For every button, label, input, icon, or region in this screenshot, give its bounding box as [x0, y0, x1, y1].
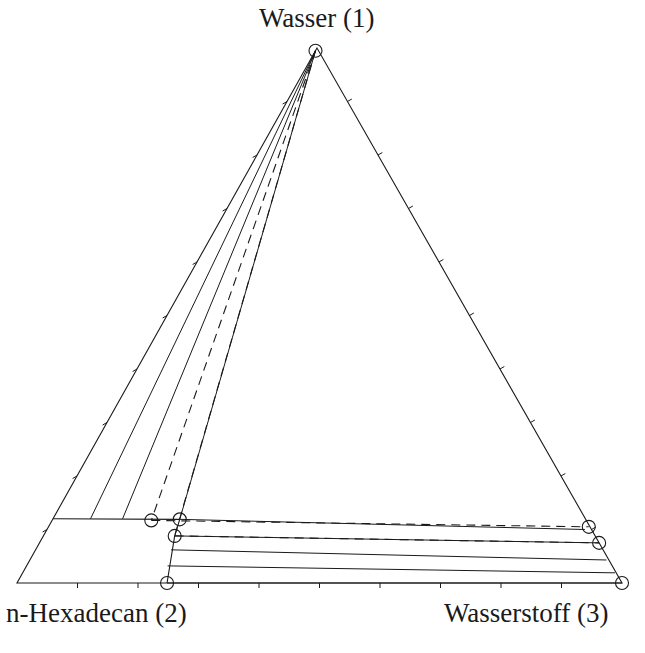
tie-lines [53, 51, 622, 583]
tie-line-solid [91, 51, 316, 519]
tick-right [500, 367, 504, 370]
triangle-frame [17, 48, 622, 583]
three-phase-line [53, 519, 180, 520]
tick-right [439, 260, 443, 263]
tick-right [470, 313, 474, 316]
tick-right [531, 420, 535, 423]
tick-right [561, 474, 565, 477]
tie-line-solid [171, 550, 606, 560]
ternary-diagram [0, 0, 645, 653]
triangle-outline [17, 48, 622, 583]
hex-rich-boundary [167, 519, 180, 583]
vertex-label-wasser: Wasser (1) [259, 5, 375, 32]
vertex-label-hexadecan: n-Hexadecan (2) [6, 600, 187, 627]
tie-line-solid [180, 519, 585, 529]
tick-right [378, 153, 382, 156]
phase-points [145, 44, 629, 589]
vertex-label-wasserstoff: Wasserstoff (3) [444, 600, 609, 627]
tick-right [348, 99, 352, 102]
tie-line-solid [123, 51, 316, 519]
axis-ticks [43, 99, 596, 588]
tick-right [409, 206, 413, 209]
tie-line-dashed [151, 51, 315, 521]
tie-line-solid [175, 536, 599, 543]
tie-line-solid [168, 566, 615, 573]
